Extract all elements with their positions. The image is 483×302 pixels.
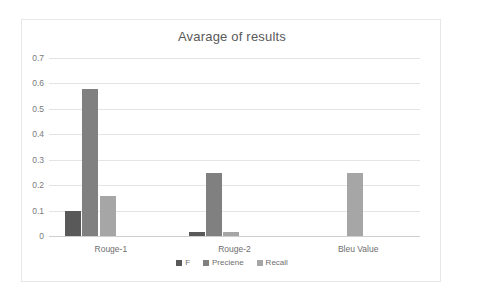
bar-preciene-rouge-2: [206, 173, 222, 236]
gridline: [49, 109, 420, 110]
gridline: [49, 185, 420, 186]
x-axis-category-label: Rouge-1: [95, 244, 128, 254]
y-axis-tick-label: 0.6: [32, 78, 44, 88]
legend-item-preciene[interactable]: Preciene: [203, 258, 244, 267]
bar-preciene-rouge-1: [82, 89, 98, 236]
y-axis-tick-label: 0.7: [32, 53, 44, 63]
chart-title: Avarage of results: [22, 29, 442, 44]
bar-f-rouge-1: [65, 211, 81, 236]
y-axis-tick-label: 0.5: [32, 104, 44, 114]
bar-f-rouge-2: [189, 232, 205, 236]
gridline: [49, 58, 420, 59]
legend-swatch-icon: [176, 260, 182, 266]
gridline: [49, 134, 420, 135]
y-axis-tick-label: 0.1: [32, 206, 44, 216]
chart-legend: FPrecieneRecall: [22, 258, 442, 267]
y-axis-tick-label: 0: [39, 231, 44, 241]
legend-item-recall[interactable]: Recall: [257, 258, 288, 267]
legend-label: Preciene: [212, 258, 244, 267]
gridline: [49, 236, 420, 237]
x-axis-category-label: Rouge-2: [218, 244, 251, 254]
legend-swatch-icon: [203, 260, 209, 266]
gridline: [49, 160, 420, 161]
y-axis-tick-label: 0.3: [32, 155, 44, 165]
legend-swatch-icon: [257, 260, 263, 266]
y-axis-tick-label: 0.2: [32, 180, 44, 190]
legend-item-f[interactable]: F: [176, 258, 190, 267]
bar-recall-rouge-2: [223, 232, 239, 236]
bar-recall-rouge-1: [100, 196, 116, 236]
legend-label: Recall: [266, 258, 288, 267]
plot-area: 00.10.20.30.40.50.60.7 Rouge-1Rouge-2Ble…: [49, 58, 420, 236]
y-axis-tick-label: 0.4: [32, 129, 44, 139]
chart-container: Avarage of results 00.10.20.30.40.50.60.…: [21, 19, 441, 282]
gridline: [49, 83, 420, 84]
bar-recall-bleu-value: [347, 173, 363, 236]
x-axis-category-label: Bleu Value: [338, 244, 378, 254]
legend-label: F: [185, 258, 190, 267]
